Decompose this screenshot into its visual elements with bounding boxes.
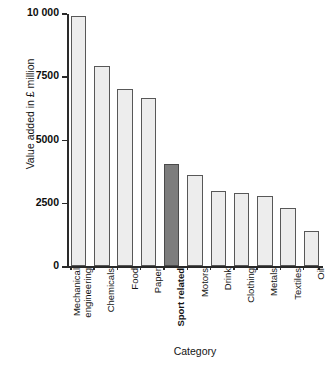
y-tick-label: 0 (53, 259, 59, 271)
x-category-label: Motors (200, 268, 213, 340)
bar (71, 16, 87, 266)
y-tick-label: 5000 (36, 133, 59, 145)
x-axis-category-labels: MechanicalengineeringChemicalsFoodPaperS… (67, 268, 323, 340)
x-category-label: Paper (153, 268, 166, 340)
bar (187, 175, 203, 266)
x-category-label-line: Drink (223, 268, 234, 340)
x-category-label-line: Motors (200, 268, 211, 340)
plot-area: 025005000750010 000 (67, 10, 323, 267)
y-tick: 7500 (62, 76, 67, 78)
bar (257, 196, 273, 266)
x-category-label-line: Sport related (176, 268, 187, 340)
x-category-label: Drink (223, 268, 236, 340)
x-category-label-line: Textiles (293, 268, 304, 340)
x-category-label: Chemicals (106, 268, 119, 340)
x-category-label: Textiles (293, 268, 306, 340)
x-category-label-line: Chemicals (106, 268, 117, 340)
y-tick-label: 10 000 (27, 6, 59, 18)
y-tick: 5000 (62, 140, 67, 142)
bar (94, 66, 110, 266)
bar (304, 231, 320, 266)
x-category-label: Sport related (176, 268, 189, 340)
y-tick-label: 7500 (36, 69, 59, 81)
x-category-label-line: Paper (153, 268, 164, 340)
bars-group (67, 10, 323, 267)
x-category-label-line: Oil (316, 268, 327, 340)
x-axis-title: Category (67, 345, 323, 357)
x-category-label: Metals (269, 268, 282, 340)
bar (141, 98, 157, 266)
x-category-label-line: Food (130, 268, 141, 340)
x-category-label-line: Metals (269, 268, 280, 340)
chart-title (60, 0, 280, 3)
x-category-label-line: Clothing (246, 268, 257, 340)
y-tick: 10 000 (62, 13, 67, 15)
y-axis-title: Value added in £ million (24, 24, 36, 204)
bar-chart: Value added in £ million 025005000750010… (0, 0, 333, 368)
bar (211, 191, 227, 266)
x-category-label-line: engineering (82, 268, 93, 340)
x-category-label-line: Mechanical (72, 268, 83, 340)
x-category-label: Clothing (246, 268, 259, 340)
bar (280, 208, 296, 266)
bar (164, 164, 180, 266)
bar (117, 89, 133, 266)
x-category-label: Oil (316, 268, 329, 340)
bar (234, 193, 250, 266)
x-category-label: Mechanicalengineering (72, 268, 96, 340)
y-tick-label: 2500 (36, 196, 59, 208)
y-tick: 2500 (62, 203, 67, 205)
x-category-label: Food (130, 268, 143, 340)
